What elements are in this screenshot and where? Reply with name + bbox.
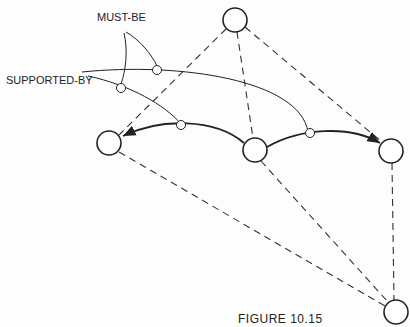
arrow-middle-to-right [267, 131, 380, 147]
label-must-be: MUST-BE [97, 11, 146, 23]
node-bottom [384, 300, 408, 324]
relation-marker [177, 121, 186, 130]
dashed-edge-middle-bottom [261, 161, 388, 302]
relation-marker [306, 129, 315, 138]
figure-caption: FIGURE 10.15 [238, 312, 323, 326]
must-be-link-1 [126, 32, 157, 66]
relation-marker [153, 66, 162, 75]
relation-marker [117, 84, 126, 93]
node-left [97, 131, 121, 155]
supported-by-link-1 [82, 69, 308, 132]
figure: MUST-BE SUPPORTED-BY FIGURE 10.15 [0, 0, 410, 327]
dashed-edge-top-left [119, 29, 226, 135]
dashed-edge-right-bottom [392, 163, 394, 300]
node-middle [243, 138, 267, 162]
must-be-link-2 [121, 33, 126, 84]
diagram-canvas: MUST-BE SUPPORTED-BY FIGURE 10.15 [0, 0, 410, 327]
label-supported-by: SUPPORTED-BY [6, 74, 93, 86]
dashed-edge-top-right [245, 27, 382, 142]
dashed-edge-left-bottom [119, 152, 385, 306]
supported-by-link-2 [88, 76, 181, 124]
node-top [223, 8, 247, 32]
node-right [379, 139, 403, 163]
